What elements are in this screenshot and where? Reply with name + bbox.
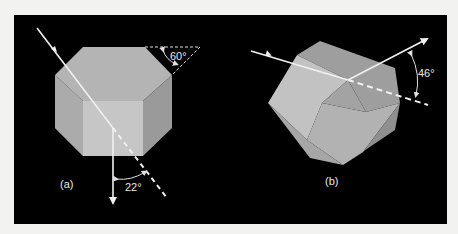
face-angle-label: 60° <box>170 50 187 62</box>
deviation-angle-label-b: 46° <box>418 67 435 79</box>
deviation-angle-label-a: 22° <box>125 181 142 193</box>
halo-crystal-figure: 60° 22° (a) 46° (b) <box>0 0 458 234</box>
panel-label-a: (a) <box>60 178 73 190</box>
panel-label-b: (b) <box>325 175 338 187</box>
